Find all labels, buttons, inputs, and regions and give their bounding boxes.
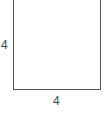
square-shape xyxy=(13,0,101,90)
left-side-length-label: 4 xyxy=(1,39,8,51)
bottom-side-length-label: 4 xyxy=(53,95,60,107)
diagram-canvas: 4 4 xyxy=(0,0,103,113)
